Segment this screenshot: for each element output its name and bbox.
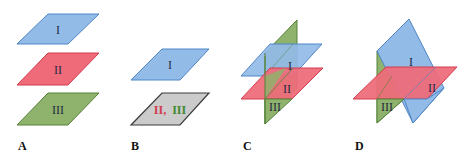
panel-b-letter: B bbox=[131, 139, 139, 153]
plane-i-label: I bbox=[56, 23, 60, 37]
panel-d: I II III D bbox=[353, 19, 457, 153]
plane-ii-label: II bbox=[283, 82, 291, 96]
panel-b: I II, III B bbox=[131, 49, 209, 153]
plane-i-label: I bbox=[288, 59, 292, 73]
plane-ii-label: II bbox=[54, 63, 62, 77]
plane-i-label: I bbox=[168, 58, 172, 72]
plane-iii-label: III bbox=[172, 103, 186, 117]
plane-ii bbox=[353, 67, 457, 99]
panel-c-letter: C bbox=[243, 139, 252, 153]
plane-ii-label: II bbox=[428, 81, 436, 95]
plane-ii-label: II, bbox=[154, 103, 166, 117]
panel-c: I II III C bbox=[241, 20, 323, 153]
plane-iii-label: III bbox=[269, 100, 281, 114]
panel-d-letter: D bbox=[355, 139, 364, 153]
panel-a: I II III A bbox=[17, 14, 99, 153]
plane-iii-label: III bbox=[381, 100, 393, 114]
planes-figure: I II III A I II, III B I II bbox=[0, 0, 474, 154]
panel-a-letter: A bbox=[18, 139, 27, 153]
plane-ii-iii-coincident bbox=[131, 93, 209, 125]
plane-i-label: I bbox=[409, 55, 413, 69]
plane-iii-label: III bbox=[52, 103, 64, 117]
